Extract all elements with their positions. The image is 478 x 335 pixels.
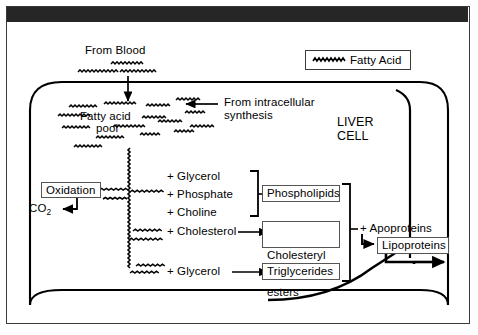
label-plus-cholesterol: + Cholesterol: [167, 225, 236, 238]
oxidation-box: Oxidation: [41, 182, 101, 198]
co2-subscript: 2: [46, 208, 51, 217]
fatty-acid-blood-group: [78, 62, 156, 72]
lipoprotein-channel-top-curve: [396, 90, 410, 110]
cholesteryl-esters-line1: Cholesteryl: [267, 249, 335, 261]
label-from-blood: From Blood: [85, 44, 145, 57]
product-box-phospholipids: Phospholipids: [262, 185, 340, 202]
label-plus-apoproteins: + Apoproteins: [360, 222, 432, 235]
label-plus-glycerol-phospholipid: + Glycerol: [167, 170, 220, 183]
legend-label: Fatty Acid: [350, 54, 402, 67]
diagram-figure: From Blood From intracellular synthesis …: [0, 0, 478, 335]
product-box-triglycerides: Triglycerides: [262, 263, 340, 280]
branch-phospholipid-squiggle: [130, 190, 164, 192]
product-box-lipoproteins: Lipoproteins: [377, 237, 449, 254]
co2-text: CO: [29, 202, 46, 214]
label-liver-cell-line1: LIVER: [337, 115, 374, 129]
label-liver-cell-line2: CELL: [337, 129, 369, 143]
legend-fatty-acid-squiggle-icon: [312, 55, 346, 65]
cholesteryl-esters-line2: esters: [267, 286, 335, 298]
bracket-lipid-products: [342, 184, 350, 281]
label-fatty-acid-pool-line2: pool: [96, 122, 118, 135]
label-fatty-acid-pool-line1: Fatty acid: [80, 110, 131, 123]
product-box-cholesteryl-esters: Cholesteryl esters: [262, 221, 340, 248]
bracket-phospholipid-substrates: [250, 171, 258, 216]
branch-triglyceride-squiggle: [130, 264, 165, 273]
label-co2: CO2: [29, 202, 51, 215]
cell-membrane-bottom: [30, 290, 448, 305]
label-from-intracellular-synthesis-line2: synthesis: [224, 109, 273, 122]
branch-oxidation-squiggle: [99, 188, 128, 199]
label-from-intracellular-synthesis-line1: From intracellular: [224, 96, 315, 109]
branch-cholesterol-squiggle: [129, 229, 163, 240]
label-plus-choline: + Choline: [167, 206, 217, 219]
label-plus-glycerol-triglyceride: + Glycerol: [167, 265, 220, 278]
label-plus-phosphate: + Phosphate: [167, 188, 233, 201]
central-trunk-squiggle: [128, 148, 130, 268]
arrow-apoproteins-to-lipoproteins: [362, 234, 374, 244]
